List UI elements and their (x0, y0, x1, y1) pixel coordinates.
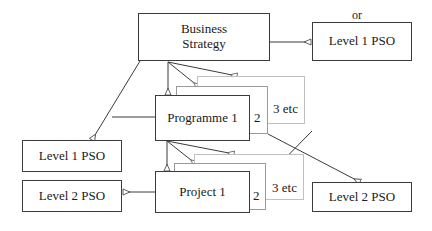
node-business-strategy-line2: Strategy (182, 36, 225, 51)
node-level2-pso-right[interactable]: Level 2 PSO (312, 182, 412, 212)
project-stack-3-label: 3 etc (272, 181, 297, 194)
node-programme-1-label: Programme 1 (167, 111, 237, 126)
project-stack-2-label: 2 (253, 189, 260, 202)
node-level2-pso-left-label: Level 2 PSO (39, 189, 105, 204)
node-business-strategy-line1: Business (181, 21, 227, 36)
connector-strategy-to-programme3 (168, 62, 237, 76)
node-level1-pso-top[interactable]: Level 1 PSO (312, 22, 412, 61)
node-level2-pso-left[interactable]: Level 2 PSO (22, 180, 122, 212)
node-project-1-label: Project 1 (179, 185, 226, 200)
node-level2-pso-right-label: Level 2 PSO (329, 190, 395, 205)
connector-programme-to-project2 (167, 141, 196, 164)
node-programme-1[interactable]: Programme 1 (155, 95, 250, 141)
node-level1-pso-top-label: Level 1 PSO (329, 34, 395, 49)
node-level1-pso-left-label: Level 1 PSO (39, 149, 105, 164)
node-business-strategy-label: Business Strategy (181, 22, 227, 51)
programme-stack-3-label: 3 etc (273, 102, 298, 115)
node-project-1[interactable]: Project 1 (155, 171, 250, 213)
node-business-strategy[interactable]: Business Strategy (138, 13, 270, 61)
connector-strategy-to-programme2 (168, 62, 199, 87)
programme-stack-2-label: 2 (254, 111, 261, 124)
diagram-canvas: Business Strategy Level 1 PSO Programme … (0, 0, 432, 231)
or-label: or (352, 9, 362, 21)
connector-programme-to-project3 (167, 141, 234, 154)
node-level1-pso-left[interactable]: Level 1 PSO (22, 140, 122, 172)
connector-strategy-to-level1pso-left (92, 61, 140, 140)
